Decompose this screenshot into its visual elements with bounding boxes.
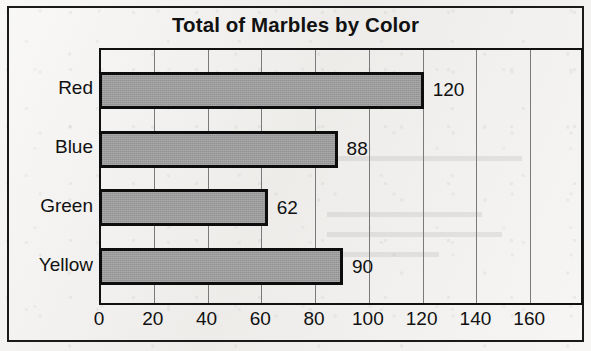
xtick-label-40: 40 [196, 308, 217, 330]
xtick-label-80: 80 [304, 308, 325, 330]
category-label-yellow: Yellow [1, 254, 93, 276]
xtick-label-60: 60 [250, 308, 271, 330]
xtick-label-0: 0 [94, 308, 105, 330]
xtick-label-100: 100 [352, 308, 384, 330]
y-axis-category-labels: RedBlueGreenYellow [0, 48, 93, 305]
bar-value-label-red: 120 [433, 79, 465, 101]
bar-green [99, 189, 268, 226]
bar-yellow [99, 248, 343, 285]
plot-area: 120886290 [99, 48, 583, 305]
bar-row-blue: 88 [101, 131, 585, 168]
category-label-green: Green [1, 195, 93, 217]
bar-red [99, 72, 424, 109]
bar-value-label-green: 62 [277, 197, 298, 219]
xtick-label-20: 20 [142, 308, 163, 330]
xtick-label-160: 160 [513, 308, 545, 330]
bar-row-green: 62 [101, 189, 585, 226]
bar-blue [99, 131, 338, 168]
bar-row-yellow: 90 [101, 248, 585, 285]
x-axis-tick-labels: 020406080100120140160 [0, 308, 591, 336]
chart-page: Total of Marbles by Color RedBlueGreenYe… [0, 0, 591, 351]
category-label-blue: Blue [1, 136, 93, 158]
xtick-label-120: 120 [406, 308, 438, 330]
chart-title: Total of Marbles by Color [0, 13, 591, 37]
xtick-label-140: 140 [460, 308, 492, 330]
bar-value-label-yellow: 90 [352, 256, 373, 278]
category-label-red: Red [1, 77, 93, 99]
bar-value-label-blue: 88 [347, 138, 368, 160]
bar-row-red: 120 [101, 72, 585, 109]
